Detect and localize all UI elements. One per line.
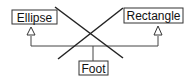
diagram-canvas: Ellipse Rectangle Foot	[0, 0, 188, 78]
class-label-rectangle: Rectangle	[126, 9, 180, 23]
class-label-foot: Foot	[81, 62, 106, 76]
class-label-ellipse: Ellipse	[17, 11, 53, 25]
generalization-arrowhead-rectangle-icon	[154, 26, 162, 35]
generalization-arrowhead-ellipse-icon	[27, 27, 35, 35]
cross-out-x-icon	[55, 7, 123, 59]
class-box-foot: Foot	[79, 61, 108, 76]
class-box-rectangle: Rectangle	[124, 8, 183, 23]
inheritance-connectors	[31, 36, 158, 61]
class-box-ellipse: Ellipse	[12, 10, 57, 25]
